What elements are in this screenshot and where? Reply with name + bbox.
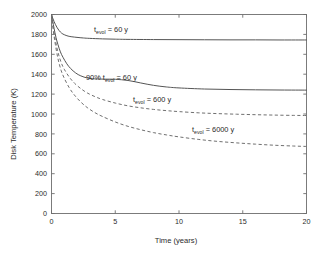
x-tick-label: 15 [239,217,247,226]
annotation-text: tevol = 60 y [94,25,128,35]
y-tick-label: 800 [35,130,47,139]
y-tick-label: 200 [35,189,47,198]
x-tick-label: 5 [113,217,117,226]
ann-tevol-60: tevol = 60 y [94,25,128,35]
annotation-main: 90% t [86,73,105,82]
annotation-subscript: evol [96,29,106,35]
y-tick-label: 600 [35,149,47,158]
ann-90pct-tevol-60: 90% tevol = 60 y [86,73,137,83]
y-tick-label: 1800 [31,30,47,39]
annotation-tail: = 6000 y [204,125,235,134]
y-tick-label: 1200 [31,90,47,99]
series-line-0 [52,15,307,40]
y-axis-title: Disk Temperature (K) [9,88,18,160]
annotation-text: tevol = 600 y [133,95,171,105]
annotation-tail: = 60 y [106,25,129,34]
y-tick-label: 1600 [31,50,47,59]
figure-container: 0200400600800100012001400160018002000051… [0,0,320,261]
x-tick-label: 10 [175,217,183,226]
annotation-subscript: evol [105,77,115,83]
y-tick-label: 0 [43,209,47,218]
x-tick-label: 0 [50,217,54,226]
disk-temperature-plot: 0200400600800100012001400160018002000051… [0,0,320,261]
annotation-text: 90% tevol = 60 y [86,73,137,83]
annotation-subscript: evol [194,129,204,135]
ann-tevol-6000: tevol = 6000 y [192,125,235,135]
curve-annotations: tevol = 60 y90% tevol = 60 ytevol = 600 … [86,25,235,135]
annotation-text: tevol = 6000 y [192,125,235,135]
ann-tevol-600: tevol = 600 y [133,95,171,105]
x-tick-label: 20 [303,217,311,226]
annotation-tail: = 60 y [114,73,137,82]
annotation-tail: = 600 y [145,95,172,104]
annotation-subscript: evol [135,99,145,105]
axes [52,15,307,214]
y-tick-label: 400 [35,169,47,178]
y-tick-label: 1400 [31,70,47,79]
y-tick-label: 1000 [31,110,47,119]
series-line-2 [52,15,307,116]
y-tick-label: 2000 [31,10,47,19]
tick-labels: 0200400600800100012001400160018002000051… [31,10,311,226]
x-axis-title: Time (years) [155,236,198,245]
